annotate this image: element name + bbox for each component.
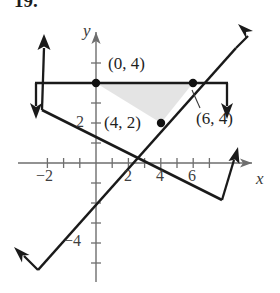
figure-root: 19.: [0, 0, 280, 293]
x-axis-label: x: [256, 170, 264, 187]
graph-canvas: [0, 0, 280, 293]
y-axis-label: y: [83, 22, 91, 39]
x-tick-label-neg-2: −2: [36, 168, 53, 184]
y-tick-label-2: 2: [76, 114, 84, 130]
vertex-dot-0-4: [92, 79, 100, 87]
point-label-6-4: (6, 4): [196, 110, 233, 127]
descending-lower-stem: [222, 160, 234, 200]
y-tick-label-neg-4: −4: [64, 233, 81, 249]
ascending-upper-arrowhead: [238, 24, 253, 39]
descending-upper-arrowhead: [38, 34, 51, 50]
vertex-dot-4-2: [157, 119, 165, 127]
ascending-lower-stem: [24, 256, 38, 270]
descending-upper-stem: [42, 48, 44, 110]
x-tick-label-4: 4: [156, 168, 164, 184]
x-tick-label-6: 6: [188, 168, 196, 184]
point-label-0-4: (0, 4): [108, 55, 145, 72]
vertex-dot-6-4: [189, 79, 197, 87]
point-label-4-2: (4, 2): [104, 114, 141, 131]
x-tick-label-2: 2: [124, 168, 132, 184]
